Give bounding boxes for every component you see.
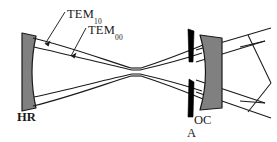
resonator-drawing (0, 0, 277, 142)
chevron-lower-arm (248, 83, 271, 112)
aperture-bar-lower (188, 79, 194, 117)
oc-mirror (200, 35, 222, 110)
tem10-leader-line (45, 12, 65, 44)
aperture-bar-upper (188, 29, 194, 62)
tem00-lower-left (34, 74, 132, 97)
label-tem00-main: TEM (88, 23, 115, 37)
tem00-beam-envelope (34, 47, 202, 97)
label-hr-mirror: HR (17, 110, 36, 125)
chevron-upper-arm-2 (240, 41, 265, 47)
label-tem00: TEM00 (88, 20, 123, 40)
label-aperture: A (187, 126, 196, 141)
label-tem10-main: TEM (67, 7, 94, 21)
tem10-beam-envelope (33, 38, 203, 106)
resonator-figure: TEM10 TEM00 HR OC A (0, 0, 277, 142)
hr-mirror (22, 33, 36, 111)
tem00-arrowhead (71, 53, 77, 59)
tem00-upper-left (34, 47, 132, 70)
tem00-leader-line (71, 28, 86, 56)
label-oc-mirror: OC (194, 113, 211, 128)
label-tem00-subscript: 00 (115, 33, 123, 42)
tem10-lower-left (33, 76, 131, 106)
